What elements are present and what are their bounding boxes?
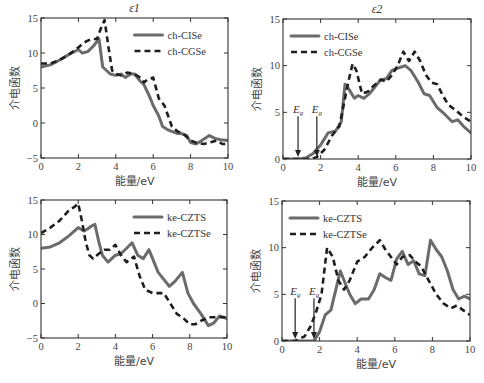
- x-tick-label: 4: [356, 162, 362, 173]
- x-tick-label: 2: [318, 162, 323, 173]
- y-tick-label: 10: [270, 60, 281, 71]
- y-tick-label: 0: [274, 336, 279, 347]
- x-tick-label: 4: [355, 344, 361, 355]
- y-tick-label: 10: [28, 48, 39, 59]
- y-tick-label: 5: [33, 264, 38, 275]
- x-tick-label: 10: [466, 162, 477, 173]
- y-tick-label: 15: [269, 196, 280, 207]
- y-tick-label: 0: [275, 154, 280, 165]
- y-tick-label: 0: [33, 118, 38, 129]
- y-tick-label: 5: [33, 83, 38, 94]
- x-tick-label: 6: [150, 341, 155, 352]
- x-tick-label: 2: [76, 341, 81, 352]
- y-tick-label: 5: [275, 107, 280, 118]
- eg-label: Eg: [308, 285, 320, 299]
- x-tick-label: 2: [317, 344, 322, 355]
- eg-label: Eg: [292, 103, 304, 117]
- plot-frame: [283, 19, 471, 159]
- legend-label: ke-CZTS: [323, 213, 362, 224]
- y-axis-label: 介电函数: [250, 249, 263, 293]
- x-tick-label: 10: [223, 161, 234, 172]
- x-axis-label: 能量/eV: [114, 354, 154, 368]
- legend-label: ke-CZTSe: [323, 229, 367, 240]
- panel-title: ε2: [372, 2, 383, 16]
- y-axis-label: 介电函数: [9, 66, 22, 110]
- x-tick-label: 10: [465, 344, 476, 355]
- x-tick-label: 8: [431, 162, 436, 173]
- plot-frame: [282, 201, 470, 341]
- dielectric-function-figure: 0246810−5051015能量/eV介电函数ε1ch-CISech-CGSe…: [0, 0, 484, 383]
- x-tick-label: 4: [113, 341, 119, 352]
- panel-top-left: 0246810−5051015能量/eV介电函数ε1ch-CISech-CGSe: [9, 1, 233, 188]
- y-tick-label: 5: [274, 289, 279, 300]
- x-tick-label: 8: [430, 344, 435, 355]
- legend-label: ch-CGSe: [168, 46, 207, 57]
- series-ke-CZTS: [41, 224, 227, 325]
- y-axis-label: 介电函数: [251, 67, 264, 111]
- eg-label: Eg: [289, 285, 301, 299]
- legend-label: ch-CISe: [168, 30, 203, 41]
- panel-top-right: 0246810051015能量/eV介电函数ε2ch-CISech-CGSeEg…: [251, 2, 476, 189]
- eg-label: Eg: [311, 103, 323, 117]
- x-tick-label: 0: [279, 344, 284, 355]
- x-tick-label: 0: [38, 161, 43, 172]
- y-tick-label: 15: [28, 195, 39, 206]
- y-axis-label: 介电函数: [9, 247, 22, 291]
- x-tick-label: 4: [113, 161, 119, 172]
- y-tick-label: −5: [27, 333, 38, 344]
- x-tick-label: 6: [393, 162, 398, 173]
- x-tick-label: 2: [76, 161, 81, 172]
- y-tick-label: 10: [28, 229, 39, 240]
- panel-bottom-left: 0246810−5051015能量/eV介电函数ke-CZTSke-CZTSe: [9, 195, 232, 369]
- y-tick-label: 15: [28, 13, 39, 24]
- legend-label: ke-CZTSe: [167, 228, 211, 239]
- x-tick-label: 0: [280, 162, 285, 173]
- panel-title: ε1: [129, 1, 140, 15]
- legend-label: ke-CZTS: [167, 212, 206, 223]
- x-tick-label: 6: [151, 161, 156, 172]
- panel-bottom-right: 0246810051015能量/eV介电函数ke-CZTSke-CZTSeEgE…: [250, 196, 475, 372]
- y-tick-label: 0: [33, 298, 38, 309]
- legend-label: ch-CISe: [324, 31, 359, 42]
- x-tick-label: 10: [222, 341, 233, 352]
- legend-label: ch-CGSe: [324, 47, 363, 58]
- x-tick-label: 6: [392, 344, 397, 355]
- x-tick-label: 8: [188, 161, 193, 172]
- y-tick-label: 10: [269, 242, 280, 253]
- x-tick-label: 0: [38, 341, 43, 352]
- y-tick-label: −5: [27, 153, 38, 164]
- x-axis-label: 能量/eV: [356, 357, 396, 371]
- y-tick-label: 15: [270, 14, 281, 25]
- x-axis-label: 能量/eV: [357, 175, 397, 189]
- x-axis-label: 能量/eV: [115, 174, 155, 188]
- x-tick-label: 8: [187, 341, 192, 352]
